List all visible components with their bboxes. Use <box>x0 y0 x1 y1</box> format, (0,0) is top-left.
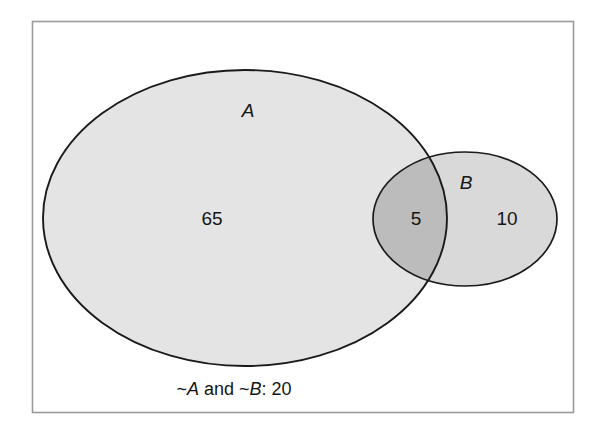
caption-conjunction: and <box>199 379 239 399</box>
set-b-only-count: 10 <box>496 208 517 229</box>
venn-diagram-canvas: A B 65 5 10 ~A and ~B: 20 <box>0 0 600 430</box>
set-b-label: B <box>460 172 473 193</box>
caption-b-label: B <box>250 379 262 399</box>
set-a-only-count: 65 <box>201 208 222 229</box>
caption-suffix: : 20 <box>262 379 292 399</box>
caption-a-label: A <box>186 379 199 399</box>
outside-sets-caption: ~A and ~B: 20 <box>176 379 291 399</box>
caption-tilde-a: ~ <box>176 379 187 399</box>
set-a-label: A <box>241 100 255 121</box>
caption-tilde-b: ~ <box>239 379 250 399</box>
venn-figure: A B 65 5 10 ~A and ~B: 20 <box>0 0 600 430</box>
intersection-count: 5 <box>411 208 422 229</box>
